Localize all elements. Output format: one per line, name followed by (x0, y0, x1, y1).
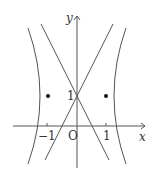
tick-label-x-pos: 1 (103, 130, 111, 142)
point-neg1-1 (46, 94, 50, 98)
hyperbola-left-branch (28, 28, 40, 164)
point-1-1 (104, 94, 108, 98)
y-axis-label: y (66, 12, 73, 24)
tick-label-x-neg: −1 (38, 130, 56, 142)
tick-label-y-pos: 1 (67, 90, 75, 102)
graph (0, 0, 156, 178)
hyperbola-right-branch (114, 28, 126, 164)
hyperbola-figure: y x O −1 1 1 (0, 0, 156, 178)
x-axis-label: x (139, 131, 146, 143)
origin-label: O (68, 130, 78, 142)
